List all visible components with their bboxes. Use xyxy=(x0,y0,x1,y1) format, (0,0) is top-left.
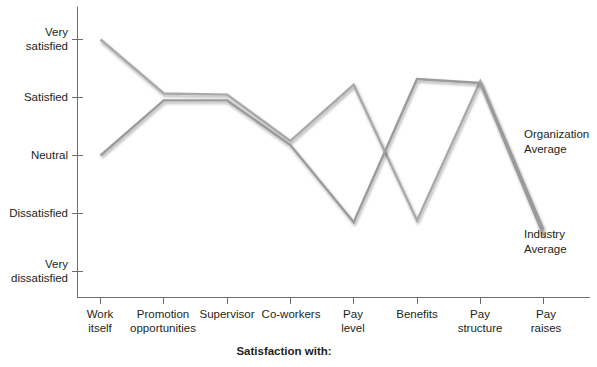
x-tick-label-pay-raises-line1: Pay xyxy=(536,308,556,320)
series-line-industry-average xyxy=(101,79,544,236)
legend-label-industry-average-line2: Average xyxy=(524,243,567,255)
x-tick-label-promotion-opportunities-line2: opportunities xyxy=(130,322,196,334)
legend-label-organization-average-line2: Average xyxy=(524,143,567,155)
y-tick-label-dissatisfied: Dissatisfied xyxy=(9,207,68,219)
y-tick-label-neutral: Neutral xyxy=(31,149,68,161)
x-tick-label-pay-level-line2: level xyxy=(341,322,365,334)
x-axis-title: Satisfaction with: xyxy=(236,345,331,357)
series-line-organization-average xyxy=(101,40,544,230)
chart-canvas: Very satisfied Satisfied Neutral Dissati… xyxy=(0,0,597,367)
top-edge-crop xyxy=(0,0,597,7)
satisfaction-line-chart: Very satisfied Satisfied Neutral Dissati… xyxy=(0,0,597,367)
y-tick-label-very-satisfied-line1: Very xyxy=(45,26,68,38)
x-tick-label-pay-structure-line1: Pay xyxy=(470,308,490,320)
x-axis-tick-labels: Work itself Promotion opportunities Supe… xyxy=(87,308,562,334)
y-tick-label-satisfied: Satisfied xyxy=(24,91,68,103)
y-tick-label-very-dissatisfied-line2: dissatisfied xyxy=(11,272,68,284)
y-axis-tick-labels: Very satisfied Satisfied Neutral Dissati… xyxy=(9,26,68,284)
y-tick-label-very-satisfied-line2: satisfied xyxy=(26,40,68,52)
x-tick-label-pay-raises-line2: raises xyxy=(531,322,562,334)
legend-label-industry-average-line1: Industry xyxy=(524,228,565,240)
x-tick-label-work-itself-line2: itself xyxy=(88,322,112,334)
x-tick-label-benefits: Benefits xyxy=(396,308,438,320)
x-tick-label-promotion-opportunities-line1: Promotion xyxy=(137,308,189,320)
y-tick-label-very-dissatisfied-line1: Very xyxy=(45,258,68,270)
x-tick-label-pay-level-line1: Pay xyxy=(343,308,363,320)
x-tick-label-supervisor: Supervisor xyxy=(200,308,255,320)
legend: Organization Average Industry Average xyxy=(524,128,589,255)
x-tick-label-pay-structure-line2: structure xyxy=(458,322,503,334)
x-tick-label-work-itself-line1: Work xyxy=(87,308,114,320)
x-tick-label-co-workers: Co-workers xyxy=(262,308,321,320)
legend-label-organization-average-line1: Organization xyxy=(524,128,589,140)
